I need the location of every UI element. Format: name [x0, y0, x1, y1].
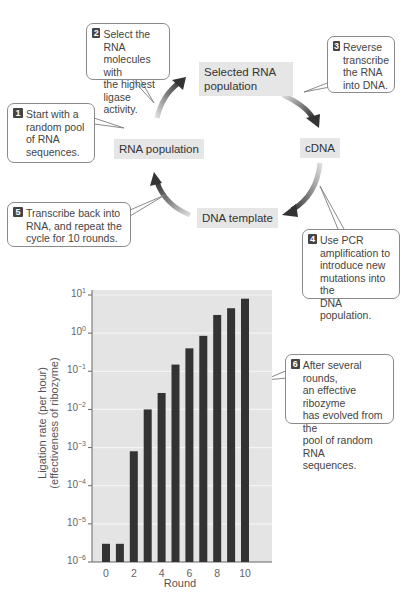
step-3-text: Reverse transcribe the RNA into DNA.	[343, 41, 389, 91]
step-1-text: Start with a random pool of RNA sequence…	[26, 108, 84, 158]
node-selected-rna-population: Selected RNA population	[199, 62, 293, 96]
node-dna-template: DNA template	[197, 208, 278, 228]
step-2-badge: 2	[92, 28, 100, 38]
step-6-callout: 6After several rounds, an effective ribo…	[285, 354, 394, 424]
step-6-text: After several rounds, an effective riboz…	[303, 359, 388, 472]
step-4-badge: 4	[308, 234, 317, 244]
step-2-text: Select the RNA molecules with the highes…	[103, 28, 164, 116]
step-1-callout: 1Start with a random pool of RNA sequenc…	[7, 103, 95, 163]
step-6-badge: 6	[291, 359, 300, 369]
node-rna-population: RNA population	[114, 139, 204, 159]
step-5-badge: 5	[13, 207, 23, 217]
step-3-callout: 3Reverse transcribe the RNA into DNA.	[327, 36, 395, 93]
step-5-text: Transcribe back into RNA, and repeat the…	[26, 207, 122, 245]
step-3-badge: 3	[333, 41, 340, 51]
step-4-text: Use PCR amplification to introduce new m…	[320, 234, 394, 322]
node-cdna: cDNA	[300, 138, 340, 158]
step-5-callout: 5Transcribe back into RNA, and repeat th…	[7, 202, 131, 247]
step-4-callout: 4Use PCR amplification to introduce new …	[302, 229, 400, 299]
step-1-badge: 1	[13, 108, 23, 118]
step-2-callout: 2Select the RNA molecules with the highe…	[86, 23, 170, 80]
